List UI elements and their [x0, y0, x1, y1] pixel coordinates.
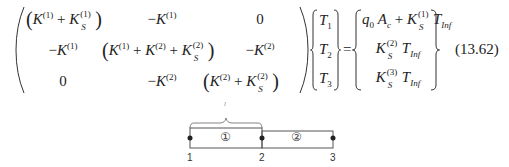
- element-2-label: ②: [291, 130, 302, 144]
- node-3-dot: [331, 136, 336, 141]
- node-2-label: 2: [259, 152, 265, 163]
- unknown-t3: T3: [319, 71, 332, 86]
- brace-label: l: [224, 100, 226, 108]
- unknown-t1: T1: [319, 13, 332, 28]
- matrix-cell-2-1: −K(1): [49, 43, 78, 58]
- rhs-row-1: q0 Ac + K(1)STInf: [362, 11, 451, 31]
- node-3-label: 3: [330, 152, 336, 163]
- rhs-row-3: K(3)STInf: [376, 69, 420, 89]
- matrix-right-paren: [298, 6, 310, 94]
- matrix-cell-1-3: 0: [256, 12, 264, 27]
- node-2-dot: [260, 136, 265, 141]
- matrix-cell-3-1: 0: [59, 74, 67, 89]
- rhs-row-2: K(2)STInf: [376, 40, 420, 60]
- element-diagram: [180, 100, 350, 150]
- matrix-cell-2-2: (K(1) + K(2) + K(2)S): [102, 40, 214, 62]
- matrix-cell-2-3: −K(2): [246, 43, 275, 58]
- node-1-dot: [188, 136, 193, 141]
- length-brace: [190, 118, 262, 128]
- equation-number: (13.62): [455, 42, 499, 57]
- node-1-label: 1: [187, 152, 193, 163]
- matrix-cell-1-1: (K(1) + K(1)S): [26, 9, 102, 31]
- matrix-left-paren: [14, 6, 26, 94]
- unknowns-right-brace: [333, 9, 341, 91]
- matrix-cell-1-2: −K(1): [148, 12, 177, 27]
- element-1-label: ①: [220, 130, 231, 144]
- rhs-left-brace: [352, 9, 362, 91]
- matrix-cell-3-2: −K(2): [148, 74, 177, 89]
- equals-sign: =: [343, 42, 351, 57]
- unknown-t2: T2: [319, 42, 332, 57]
- matrix-cell-3-3: (K(2) + K(2)S): [203, 71, 279, 93]
- unknowns-left-brace: [310, 9, 318, 91]
